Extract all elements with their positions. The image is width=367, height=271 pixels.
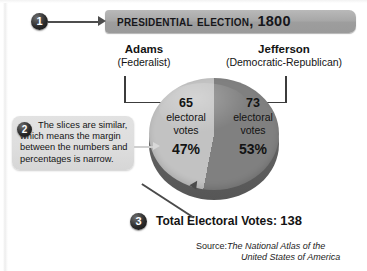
slice-percent-value: 53% xyxy=(222,141,284,158)
callout-1-leader-line xyxy=(48,21,100,23)
total-value: 138 xyxy=(280,213,302,228)
callout-marker-2: 2 xyxy=(17,122,32,137)
presidential-election-1800-figure: 1 Presidential Election, 1800 Adams (Fed… xyxy=(0,0,367,271)
slice-votes-value: 65 xyxy=(155,96,217,111)
slice-unit-line2: votes xyxy=(222,124,284,137)
callout-marker-3: 3 xyxy=(130,213,147,230)
slice-label-jefferson: 73 electoral votes 53% xyxy=(222,96,284,158)
slice-unit-line2: votes xyxy=(155,124,217,137)
source-citation: Source: The National Atlas of the United… xyxy=(196,241,356,263)
candidate-name: Jefferson xyxy=(212,42,356,56)
adams-leader-vertical xyxy=(124,76,126,103)
callout-2-text: The slices are similar, which means the … xyxy=(20,120,132,165)
callout-marker-1: 1 xyxy=(31,13,48,30)
callout-1-arrow-icon xyxy=(98,16,106,26)
page-edge-left xyxy=(3,0,8,271)
candidate-label-jefferson: Jefferson (Democratic-Republican) xyxy=(212,42,356,69)
callout-2-arrow-icon xyxy=(153,142,160,150)
candidate-label-adams: Adams (Federalist) xyxy=(106,42,182,69)
slice-percent-value: 47% xyxy=(155,141,217,158)
slice-votes-value: 73 xyxy=(222,96,284,111)
total-electoral-votes: Total Electoral Votes: 138 xyxy=(156,213,302,228)
slice-label-adams: 65 electoral votes 47% xyxy=(155,96,217,158)
candidate-name: Adams xyxy=(106,42,182,56)
slice-unit-line1: electoral xyxy=(222,111,284,124)
source-title: The National Atlas of the United States … xyxy=(225,241,356,263)
slice-unit-line1: electoral xyxy=(155,111,217,124)
candidate-party: (Federalist) xyxy=(106,56,182,69)
chart-title-bar: Presidential Election, 1800 xyxy=(105,10,356,33)
jefferson-leader-vertical xyxy=(285,76,287,103)
page-edge-top xyxy=(0,0,367,3)
source-title-line1: The National Atlas of the xyxy=(227,241,325,251)
source-title-line2: United States of America xyxy=(241,252,356,263)
source-label: Source: xyxy=(196,241,227,252)
total-label: Total Electoral Votes: xyxy=(156,214,277,228)
candidate-party: (Democratic-Republican) xyxy=(212,56,356,69)
page-title: Presidential Election, 1800 xyxy=(117,13,291,29)
